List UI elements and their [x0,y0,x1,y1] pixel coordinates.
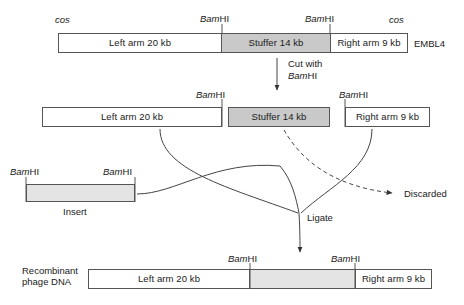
curve-left-arm-to-ligate [160,129,298,213]
curve-insert-to-ligate [137,165,299,213]
curve-right-arm-to-ligate [301,129,372,213]
diagram-canvas: cos cos BamHI BamHI Left arm 20 kb Stuff… [0,0,464,305]
connector-overlay [0,0,464,305]
ligate-arrow [299,213,300,252]
